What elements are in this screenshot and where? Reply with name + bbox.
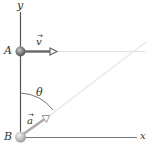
particle-b xyxy=(15,132,26,143)
diagram-canvas xyxy=(0,0,153,152)
vector-a-shaft xyxy=(22,120,44,136)
y-axis-label: y xyxy=(17,0,23,11)
particle-a xyxy=(16,47,26,57)
point-a-label: A xyxy=(4,45,12,56)
path-line-b xyxy=(49,42,146,116)
x-axis-label: x xyxy=(140,131,146,141)
angle-theta-label: θ xyxy=(36,87,43,98)
vector-v-arrowhead xyxy=(50,48,57,55)
point-b-label: B xyxy=(4,131,12,142)
vector-v-label: v xyxy=(36,37,42,47)
vector-a-label: a xyxy=(27,116,33,126)
